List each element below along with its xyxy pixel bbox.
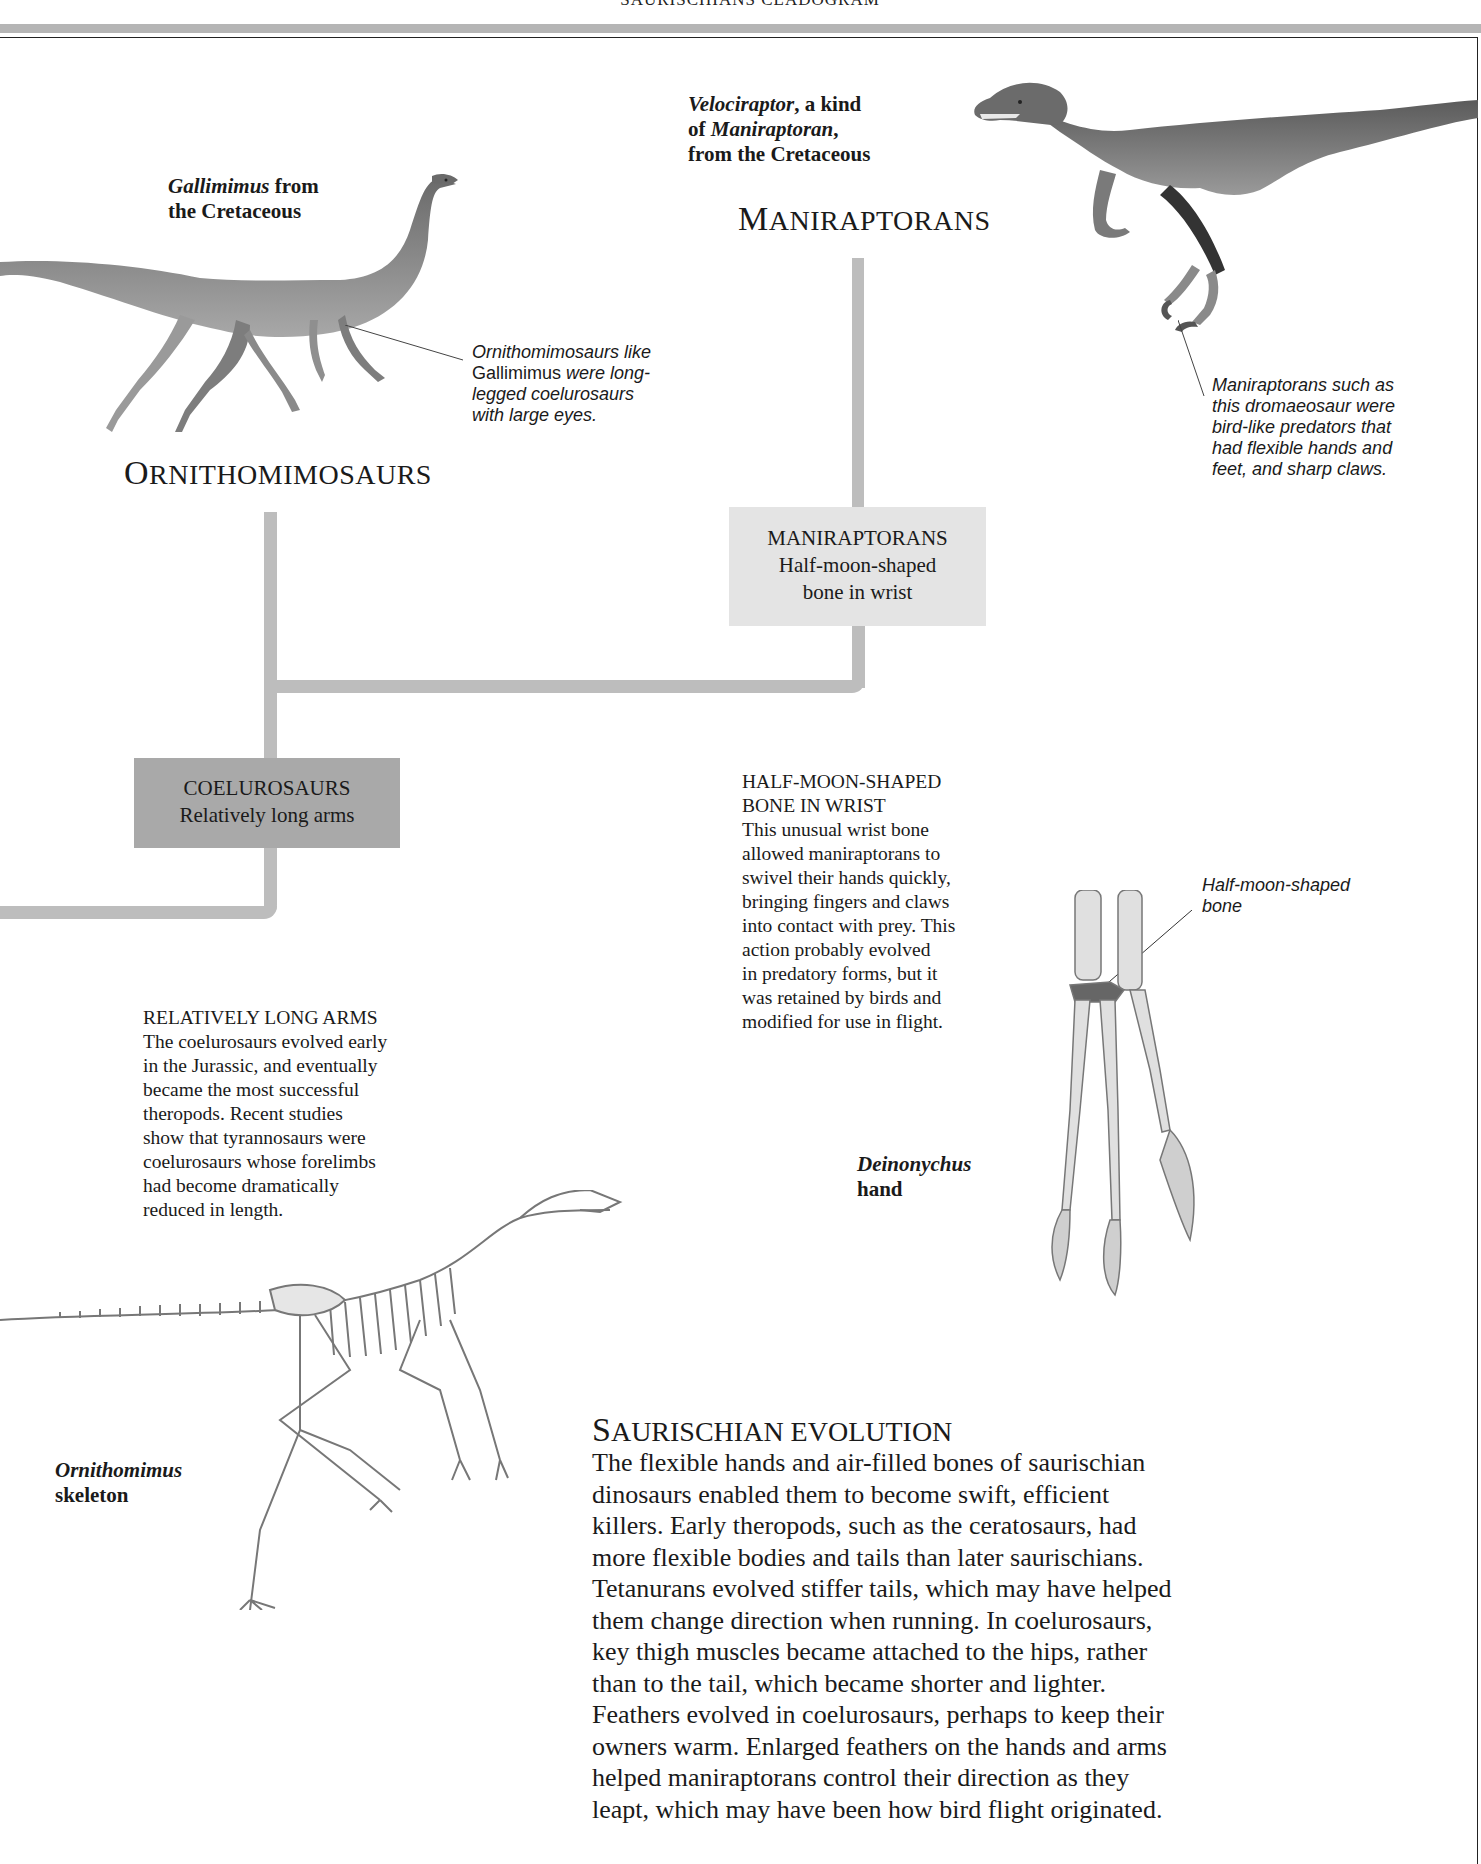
ornithomimus-skeleton-illustration (0, 1190, 640, 1610)
caption-deinonychus: Deinonychus hand (857, 1152, 971, 1202)
clade-title-ornithomimosaurs: ORNITHOMIMOSAURS (124, 454, 432, 492)
clade-box-title: MANIRAPTORANS (729, 525, 986, 552)
section-heading: BONE IN WRIST (742, 794, 1062, 818)
clade-box-title: COELUROSAURS (134, 775, 400, 802)
running-head: SAURISCHIANS CLADOGRAM (400, 0, 1100, 10)
branch-coelurosaurs (264, 680, 277, 760)
annotation-ornithomimosaurs: Ornithomimosaurs like Gallimimus were lo… (472, 342, 651, 426)
branch-connector (264, 680, 865, 693)
leader-line-ornithomimosaurs (345, 325, 465, 365)
section-heading: RELATIVELY LONG ARMS (143, 1006, 503, 1030)
leader-line-maniraptorans (1178, 320, 1208, 400)
caption-ornithomimus: Ornithomimus skeleton (55, 1458, 182, 1508)
feature-body: The flexible hands and air-filled bones … (592, 1447, 1312, 1825)
branch-maniraptorans-lower (852, 626, 865, 688)
header-band (0, 24, 1481, 33)
section-half-moon-bone: HALF-MOON-SHAPED BONE IN WRIST This unus… (742, 770, 1062, 1034)
gallimimus-illustration (0, 170, 470, 440)
clade-box-line: Half-moon-shaped (729, 552, 986, 579)
branch-base (0, 906, 277, 919)
clade-box-line: bone in wrist (729, 579, 986, 606)
annotation-maniraptorans: Maniraptorans such as this dromaeosaur w… (1212, 375, 1395, 480)
clade-box-coelurosaurs: COELUROSAURS Relatively long arms (134, 758, 400, 848)
header-rule (0, 37, 1478, 38)
deinonychus-hand-illustration (1020, 890, 1220, 1390)
caption-velociraptor: Velociraptor, a kind of Maniraptoran, fr… (688, 92, 870, 167)
velociraptor-illustration (920, 70, 1478, 335)
section-heading: HALF-MOON-SHAPED (742, 770, 1062, 794)
branch-maniraptorans-upper (852, 258, 864, 508)
feature-title: SAURISCHIAN EVOLUTION (592, 1415, 1312, 1447)
section-saurischian-evolution: SAURISCHIAN EVOLUTION The flexible hands… (592, 1415, 1312, 1825)
clade-box-line: Relatively long arms (134, 802, 400, 829)
label-half-moon-bone: Half-moon-shaped bone (1202, 875, 1350, 917)
clade-box-maniraptorans: MANIRAPTORANS Half-moon-shaped bone in w… (729, 507, 986, 626)
